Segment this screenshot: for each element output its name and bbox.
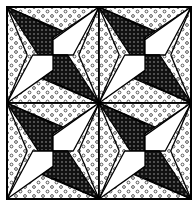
quilt-block-figure	[0, 0, 195, 208]
